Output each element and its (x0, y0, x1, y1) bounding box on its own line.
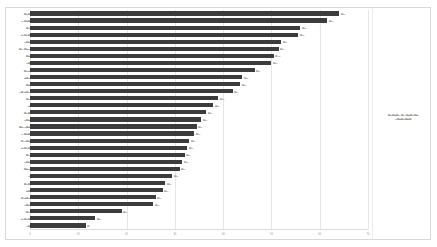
bar-row[interactable]: ▁▃▂▃▁▃▁ (6, 17, 372, 24)
category-label: ▁▃▂ (0, 222, 32, 229)
bar[interactable] (30, 40, 281, 44)
bar-row[interactable]: ▂▃▁▃▂▃▁ (6, 144, 372, 151)
category-label: ▃▂▃ (0, 52, 32, 59)
category-label: ▁▃▂▃ (0, 158, 32, 165)
bar-value-label: ▃▁ (341, 10, 345, 17)
x-axis-ticks: 010203040506070 (6, 230, 372, 239)
bar-value-label: ▃▁ (283, 38, 287, 45)
bar-row[interactable]: ▃▂▁▃▁ (6, 81, 372, 88)
bar-row[interactable]: ▁▃▂▃▃▁ (6, 201, 372, 208)
bar-value-label: ▃▁ (280, 45, 284, 52)
bar-row[interactable]: ▃▁▃▂▃▁ (6, 10, 372, 17)
bar-value-label: ▃▁ (329, 17, 333, 24)
bar[interactable] (30, 110, 206, 114)
category-label: ▃▁▃▂ (0, 10, 32, 17)
bar[interactable] (30, 11, 339, 15)
category-label: ▃▁▃ (0, 95, 32, 102)
x-tick-label: 30 (167, 230, 183, 239)
bar[interactable] (30, 174, 172, 178)
bar[interactable] (30, 131, 194, 135)
legend-panel: ▃▁▃▂▃▁ ▃▁▃▂▃▁▃▂ ▁▃▂▃▁▃▂▃ (373, 8, 431, 239)
bar[interactable] (30, 216, 95, 220)
bar-value-label: ▃▁ (97, 215, 101, 222)
bar[interactable] (30, 26, 300, 30)
bar-row[interactable]: ▃▁▃▂▃▃▁ (6, 137, 372, 144)
bar-row[interactable]: ▃▁▃▃▁ (6, 24, 372, 31)
category-label: ▃▁▂▃ (0, 67, 32, 74)
bar-row[interactable]: ▁▃▂▃▁▃▃▁ (6, 88, 372, 95)
bar-row[interactable]: ▁▃▃▁ (6, 172, 372, 179)
bar[interactable] (30, 167, 180, 171)
bar[interactable] (30, 33, 298, 37)
bar[interactable] (30, 103, 213, 107)
bar-row[interactable]: ▃▁▂▃▁ (6, 151, 372, 158)
category-label: ▁▃▂▃▁ (0, 17, 32, 24)
bar-row[interactable]: ▂▃▁▃▂▃▁ (6, 215, 372, 222)
bar-row[interactable]: ▃▁▃▂▁▃▃▁ (6, 45, 372, 52)
bar[interactable] (30, 181, 165, 185)
bar-row[interactable]: ▁▃▂▃▁ (6, 59, 372, 66)
category-label: ▃▁▃ (0, 208, 32, 215)
bar-row[interactable]: ▃▁▂▃▃▁ (6, 67, 372, 74)
bar-value-label: ▃▁ (191, 137, 195, 144)
bar-row[interactable]: ▂▃▃▁ (6, 102, 372, 109)
bar-row[interactable]: ▃▁▃▂▃▁ (6, 180, 372, 187)
bar-row[interactable]: ▂▃▁▃▂▃▁ (6, 31, 372, 38)
bar[interactable] (30, 68, 255, 72)
bar[interactable] (30, 54, 274, 58)
bar-value-label: ▃▁ (155, 201, 159, 208)
category-label: ▃▁▃▂ (0, 180, 32, 187)
category-label: ▂▃▁ (0, 187, 32, 194)
bar-row[interactable]: ▂▃▁▃▁ (6, 187, 372, 194)
x-tick-label: 50 (263, 230, 279, 239)
category-label: ▃▂▃▁▃ (0, 194, 32, 201)
bar[interactable] (30, 139, 189, 143)
bar[interactable] (30, 47, 279, 51)
chart-card: ▃▁▃▂▃▁▁▃▂▃▁▃▁▃▁▃▃▁▂▃▁▃▂▃▁▁▃▂▃▃▁▃▁▃▂▁▃▃▁▃… (5, 7, 431, 240)
bar[interactable] (30, 223, 86, 227)
bar-row[interactable]: ▃▁▃▂▃▁ (6, 109, 372, 116)
x-tick-label: 60 (312, 230, 328, 239)
bar-row[interactable]: ▂▃▁▃▃▁ (6, 74, 372, 81)
x-tick-label: 10 (70, 230, 86, 239)
bar-row[interactable]: ▁▃▂▃▃▁ (6, 158, 372, 165)
bar-row[interactable]: ▁▃▂▃ (6, 222, 372, 229)
bar-value-label: ▃▁ (275, 52, 279, 59)
bar[interactable] (30, 195, 156, 199)
category-label: ▁▃▂▃ (0, 116, 32, 123)
bar-row[interactable]: ▁▃▂▃▃▁ (6, 116, 372, 123)
bar-value-label: ▃▁ (273, 59, 277, 66)
bar-row[interactable]: ▃▁▃▃▁ (6, 208, 372, 215)
x-tick-label: 40 (215, 230, 231, 239)
bar-value-label: ▃ (87, 222, 89, 229)
bar-value-label: ▃▁ (215, 102, 219, 109)
bar-value-label: ▃▁ (244, 74, 248, 81)
bar-row[interactable]: ▁▃▂▃▁▃▁ (6, 130, 372, 137)
bar-row[interactable]: ▃▂▃▁▃▃▁ (6, 194, 372, 201)
category-label: ▃▁▃▂▁▃ (0, 45, 32, 52)
bar[interactable] (30, 202, 153, 206)
bar-row[interactable]: ▃▂▁▃▂▃▃▁ (6, 123, 372, 130)
bar[interactable] (30, 117, 201, 121)
category-label: ▁▃▂▃ (0, 201, 32, 208)
category-label: ▁▃▂ (0, 59, 32, 66)
bar[interactable] (30, 124, 197, 128)
bar[interactable] (30, 89, 233, 93)
bar[interactable] (30, 75, 242, 79)
bar-value-label: ▃▁ (157, 194, 161, 201)
bar[interactable] (30, 160, 182, 164)
bar[interactable] (30, 153, 185, 157)
bar-value-label: ▃▁ (242, 81, 246, 88)
bar[interactable] (30, 209, 122, 213)
bar-row[interactable]: ▁▃▂▃▃▁ (6, 38, 372, 45)
bar[interactable] (30, 96, 218, 100)
bar[interactable] (30, 82, 240, 86)
bar-row[interactable]: ▃▂▁▃▃▁ (6, 165, 372, 172)
bar-row[interactable]: ▃▁▃▃▁ (6, 95, 372, 102)
bar-row[interactable]: ▃▂▃▃▁ (6, 52, 372, 59)
bar[interactable] (30, 18, 327, 22)
bar-value-label: ▃▁ (196, 130, 200, 137)
bar[interactable] (30, 146, 187, 150)
bar[interactable] (30, 188, 163, 192)
bar[interactable] (30, 61, 271, 65)
